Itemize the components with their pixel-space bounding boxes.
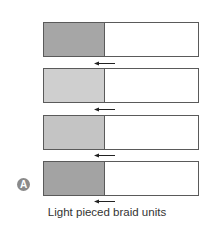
diagram-caption: Light pieced braid units [0, 206, 214, 218]
braid-unit-4 [43, 161, 199, 196]
left-arrow-icon [94, 61, 115, 66]
braid-unit-3 [43, 115, 199, 150]
left-arrow-icon [94, 153, 115, 158]
step-badge: A [17, 178, 30, 191]
shaded-patch [44, 162, 105, 195]
left-arrow-icon [94, 199, 115, 204]
shaded-patch [44, 23, 105, 56]
braid-unit-1 [43, 22, 199, 57]
shaded-patch [44, 116, 105, 149]
braid-unit-2 [43, 68, 199, 103]
left-arrow-icon [94, 107, 115, 112]
shaded-patch [44, 69, 105, 102]
